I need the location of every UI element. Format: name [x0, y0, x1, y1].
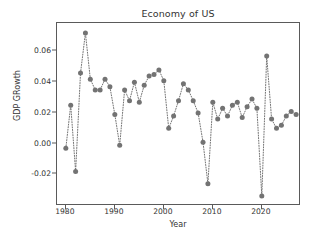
y-axis-tick-labels: -0.020.000.020.040.06	[0, 22, 51, 205]
data-point-marker	[245, 104, 250, 109]
y-tick-mark	[52, 142, 56, 143]
data-point-marker	[73, 169, 78, 174]
data-point-marker	[83, 31, 88, 36]
y-tick-label: 0.02	[34, 107, 51, 116]
data-point-marker	[147, 74, 152, 79]
x-tick-mark	[163, 205, 164, 209]
data-point-marker	[196, 110, 201, 115]
x-tick-mark	[114, 205, 115, 209]
data-point-marker	[142, 83, 147, 88]
data-point-marker	[93, 87, 98, 92]
data-point-marker	[152, 72, 157, 77]
data-point-marker	[274, 126, 279, 131]
data-point-marker	[127, 98, 132, 103]
series-line	[66, 33, 296, 196]
data-series-plot	[57, 23, 301, 206]
y-tick-mark	[52, 111, 56, 112]
data-point-marker	[215, 117, 220, 122]
data-point-marker	[279, 123, 284, 128]
data-point-marker	[210, 100, 215, 105]
data-point-marker	[181, 81, 186, 86]
data-point-marker	[284, 114, 289, 119]
data-point-marker	[294, 112, 299, 117]
data-point-marker	[235, 100, 240, 105]
data-point-marker	[107, 84, 112, 89]
data-point-marker	[88, 77, 93, 82]
data-point-marker	[117, 143, 122, 148]
data-point-marker	[137, 100, 142, 105]
data-point-marker	[240, 115, 245, 120]
y-tick-mark	[52, 81, 56, 82]
y-tick-mark	[52, 173, 56, 174]
y-tick-label: 0.06	[34, 46, 51, 55]
data-point-marker	[259, 194, 264, 199]
data-point-marker	[166, 126, 171, 131]
y-tick-label: -0.02	[31, 169, 51, 178]
data-point-marker	[112, 112, 117, 117]
data-point-marker	[225, 114, 230, 119]
data-point-marker	[98, 87, 103, 92]
data-point-marker	[78, 70, 83, 75]
plot-area	[56, 22, 300, 205]
data-point-marker	[201, 140, 206, 145]
x-axis-tick-labels: 19801990200020102020	[56, 207, 300, 221]
y-tick-mark	[52, 50, 56, 51]
data-point-marker	[264, 54, 269, 59]
data-point-marker	[269, 117, 274, 122]
y-tick-label: 0.00	[34, 138, 51, 147]
y-tick-label: 0.04	[34, 77, 51, 86]
data-point-marker	[171, 114, 176, 119]
x-tick-mark	[212, 205, 213, 209]
data-point-marker	[230, 103, 235, 108]
data-point-marker	[132, 80, 137, 85]
data-point-marker	[250, 97, 255, 102]
data-point-marker	[205, 181, 210, 186]
data-point-marker	[191, 98, 196, 103]
data-point-marker	[122, 87, 127, 92]
data-point-marker	[289, 109, 294, 114]
data-point-marker	[68, 103, 73, 108]
x-tick-mark	[65, 205, 66, 209]
chart-title: Economy of US	[56, 8, 300, 19]
data-point-marker	[103, 77, 108, 82]
data-point-marker	[63, 146, 68, 151]
data-point-marker	[176, 98, 181, 103]
x-axis-label: Year	[56, 220, 300, 229]
chart-figure: Economy of US GDP GRowth -0.020.000.020.…	[0, 0, 316, 237]
data-point-marker	[156, 67, 161, 72]
data-point-marker	[161, 78, 166, 83]
data-point-marker	[186, 87, 191, 92]
x-tick-mark	[261, 205, 262, 209]
data-point-marker	[254, 106, 259, 111]
data-point-marker	[220, 106, 225, 111]
